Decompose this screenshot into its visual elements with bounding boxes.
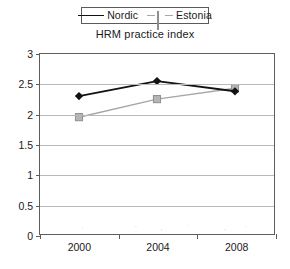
chart-legend: Nordic Estonia (81, 7, 209, 24)
y-axis-tick (36, 206, 40, 207)
x-axis-label: 2008 (225, 242, 248, 253)
legend-label-nordic: Nordic (107, 10, 138, 21)
y-axis-tick (36, 54, 40, 55)
data-point-estonia-2004 (153, 96, 160, 103)
gridline (40, 175, 274, 176)
y-axis-tick (36, 115, 40, 116)
y-axis-label: 0 (27, 231, 33, 242)
gridline (40, 145, 274, 146)
y-axis-label: 3 (27, 49, 33, 60)
y-axis-tick (36, 175, 40, 176)
y-axis-label: 2.5 (18, 79, 33, 90)
x-axis-tick (119, 234, 120, 239)
y-axis-tick (36, 84, 40, 85)
data-point-nordic-2000 (75, 92, 83, 100)
legend-item-estonia: Estonia (147, 10, 212, 21)
y-axis-label: 0.5 (18, 200, 33, 211)
y-axis-label: 2 (27, 109, 33, 120)
x-axis-label: 2000 (68, 242, 91, 253)
x-axis-tick (40, 234, 41, 239)
legend-label-estonia: Estonia (176, 10, 212, 21)
legend-item-nordic: Nordic (78, 10, 138, 21)
legend-swatch-nordic-icon (78, 10, 104, 21)
gridline (40, 115, 274, 116)
x-axis-label: 2004 (146, 242, 169, 253)
gridline (40, 206, 274, 207)
gridline (40, 84, 274, 85)
plot-area: 00.511.522.53200020042008 (39, 53, 275, 235)
y-axis-label: 1 (27, 170, 33, 181)
x-axis-tick (197, 234, 198, 239)
y-axis-tick (36, 145, 40, 146)
line-chart: Nordic Estonia HRM practice index 00.511… (0, 0, 290, 269)
chart-title: HRM practice index (0, 28, 290, 41)
legend-swatch-estonia-icon (147, 10, 173, 21)
x-axis-tick (276, 234, 277, 239)
y-axis-label: 1.5 (18, 140, 33, 151)
